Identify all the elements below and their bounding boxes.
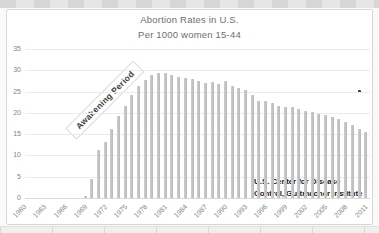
x-tick-label: 1963 [32,203,49,220]
y-tick-label: 35 [7,45,21,53]
bar-1994 [251,95,254,198]
bar-1978 [144,80,147,198]
x-tick-label: 1978 [132,203,149,220]
bar-1997 [271,103,274,198]
bar-1990 [224,81,227,198]
bar-2002 [304,111,307,198]
bar-1995 [257,101,260,198]
bar-2004 [317,114,320,198]
bar-2008 [344,122,347,198]
bar-2003 [311,112,314,198]
x-tick-label: 1990 [212,203,229,220]
x-tick-label: 2005 [313,203,330,220]
bar-1970 [90,179,93,198]
bar-2010 [358,129,361,198]
x-tick-label: 1987 [192,203,209,220]
y-tick-label: 25 [7,88,21,96]
window-edge-bottom [0,226,379,233]
bar-2001 [297,109,300,198]
bar-1996 [264,101,267,198]
x-tick-label: 1969 [72,203,89,220]
y-tick-label: 5 [7,173,21,181]
bar-2009 [351,125,354,198]
bar-2000 [291,107,294,198]
plot-area: Awakening Period U.S. Center for Disease… [7,10,372,224]
bar-1973 [110,129,113,198]
x-tick-label: 2002 [293,203,310,220]
bar-1974 [117,116,120,198]
x-tick-label: 1972 [92,203,109,220]
gridline [25,49,370,50]
x-tick-label: 1999 [273,203,290,220]
y-tick-label: 10 [7,151,21,159]
bar-2007 [337,119,340,198]
x-tick-label: 1966 [52,203,69,220]
bar-2005 [324,115,327,198]
x-tick-label: 1981 [152,203,169,220]
bar-1971 [97,150,100,198]
bar-2006 [331,117,334,198]
bar-1991 [231,86,234,198]
y-tick-label: 15 [7,130,21,138]
x-tick-label: 1960 [12,203,29,220]
chart-card: Abortion Rates in U.S. Per 1000 women 15… [6,9,373,225]
bar-1989 [217,84,220,198]
x-tick-label: 2008 [333,203,350,220]
bar-1969 [84,196,87,198]
x-tick-label: 2011 [353,203,369,219]
y-tick-label: 30 [7,66,21,74]
x-tick-label: 1984 [172,203,189,220]
bar-1979 [150,75,153,198]
x-tick-label: 1975 [112,203,129,220]
bar-1984 [184,78,187,198]
bar-1983 [177,77,180,198]
bar-1977 [137,86,140,198]
bar-1992 [237,88,240,198]
y-tick-label: 0 [7,194,21,202]
bar-1972 [104,142,107,198]
window-edge-top [0,0,379,8]
bar-1985 [191,79,194,198]
bar-1998 [277,106,280,198]
x-tick-label: 1993 [232,203,249,220]
bar-1980 [157,73,160,198]
bar-1976 [130,95,133,198]
bar-2011 [364,132,367,198]
bar-1987 [204,83,207,198]
bar-1988 [211,82,214,198]
bar-1986 [197,81,200,198]
y-tick-label: 20 [7,109,21,117]
bar-1981 [164,73,167,198]
bar-1993 [244,90,247,198]
bar-1999 [284,107,287,198]
gridline [25,70,370,71]
bar-1975 [124,106,127,198]
bar-1982 [170,75,173,198]
x-axis-line [25,198,370,199]
x-tick-label: 1996 [252,203,269,220]
